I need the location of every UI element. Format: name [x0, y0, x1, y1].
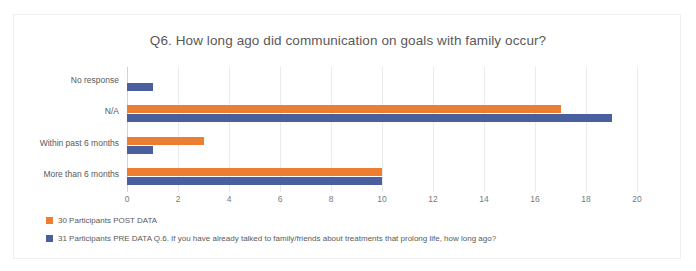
- legend-swatch-icon: [46, 235, 53, 242]
- chart-card: Q6. How long ago did communication on go…: [13, 14, 681, 259]
- x-tick-label: 16: [530, 194, 539, 204]
- bar: [127, 168, 382, 176]
- legend-swatch-icon: [46, 217, 53, 224]
- category-row: More than 6 months: [127, 161, 637, 192]
- x-tick-label: 2: [176, 194, 181, 204]
- category-row: N/A: [127, 98, 637, 129]
- category-label: N/A: [105, 106, 119, 116]
- bar: [127, 137, 204, 145]
- bar: [127, 146, 153, 154]
- x-tick-label: 20: [632, 194, 641, 204]
- x-tick-label: 8: [329, 194, 334, 204]
- category-row: No response: [127, 67, 637, 98]
- category-row: Within past 6 months: [127, 130, 637, 161]
- x-tick-label: 4: [227, 194, 232, 204]
- x-tick-label: 18: [581, 194, 590, 204]
- chart-legend: 30 Participants POST DATA31 Participants…: [46, 211, 666, 247]
- bar: [127, 83, 153, 91]
- legend-item[interactable]: 30 Participants POST DATA: [46, 211, 666, 229]
- plot-area: No responseN/AWithin past 6 monthsMore t…: [127, 67, 637, 192]
- legend-item[interactable]: 31 Participants PRE DATA Q.6. If you hav…: [46, 229, 666, 247]
- x-tick-label: 6: [278, 194, 283, 204]
- category-label: More than 6 months: [43, 169, 119, 179]
- legend-label: 31 Participants PRE DATA Q.6. If you hav…: [58, 234, 496, 243]
- x-tick-label: 0: [125, 194, 130, 204]
- category-label: Within past 6 months: [40, 138, 119, 148]
- bar: [127, 105, 561, 113]
- chart-title: Q6. How long ago did communication on go…: [14, 33, 682, 48]
- x-tick-label: 14: [479, 194, 488, 204]
- gridline: [637, 67, 638, 192]
- bar: [127, 177, 382, 185]
- x-tick-label: 12: [428, 194, 437, 204]
- x-tick-label: 10: [377, 194, 386, 204]
- bar: [127, 114, 612, 122]
- legend-label: 30 Participants POST DATA: [58, 216, 157, 225]
- x-axis: 02468101214161820: [127, 194, 637, 210]
- category-label: No response: [71, 75, 119, 85]
